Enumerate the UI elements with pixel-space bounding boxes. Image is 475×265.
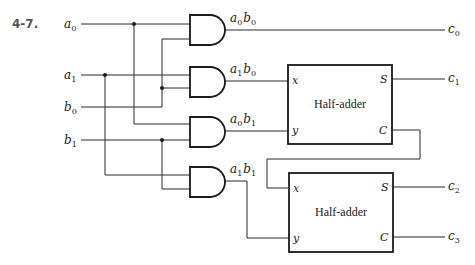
svg-text:x: x (292, 74, 299, 87)
half-adder-2: Half-adder x y S C (289, 173, 393, 252)
svg-text:c1: c1 (448, 71, 460, 87)
problem-number: 4-7. (12, 17, 38, 31)
svg-text:y: y (292, 232, 300, 245)
svg-text:a0b1: a0b1 (230, 112, 256, 128)
input-a1: a1 (64, 68, 76, 84)
svg-text:Half-adder: Half-adder (315, 205, 367, 219)
svg-text:a1b1: a1b1 (230, 162, 256, 178)
svg-text:b0: b0 (64, 100, 77, 116)
output-c2: c2 (448, 179, 460, 195)
svg-text:b1: b1 (64, 133, 77, 149)
svg-text:c2: c2 (448, 179, 460, 195)
input-b1: b1 (64, 133, 77, 149)
svg-text:x: x (293, 182, 300, 195)
half-adder-1: Half-adder x y S C (288, 65, 392, 144)
svg-text:a1b0: a1b0 (230, 62, 256, 78)
and-gate-a1b1: a1b1 (190, 162, 256, 197)
svg-text:a0: a0 (64, 17, 76, 33)
svg-text:S: S (381, 181, 389, 194)
svg-text:y: y (291, 124, 299, 137)
svg-text:Half-adder: Half-adder (314, 97, 366, 111)
and-gate-a0b0: a0b0 (190, 11, 256, 45)
svg-text:C: C (379, 124, 388, 137)
svg-text:c3: c3 (448, 229, 460, 245)
input-b0: b0 (64, 100, 77, 116)
svg-text:a0b0: a0b0 (230, 11, 256, 27)
input-a0: a0 (64, 17, 76, 33)
output-c1: c1 (448, 71, 460, 87)
svg-text:a1: a1 (64, 68, 76, 84)
svg-text:c0: c0 (448, 22, 460, 38)
output-c0: c0 (448, 22, 460, 38)
svg-text:C: C (380, 231, 389, 244)
and-gate-a1b0: a1b0 (190, 62, 256, 97)
and-gate-a0b1: a0b1 (190, 112, 256, 147)
output-c3: c3 (448, 229, 460, 245)
binary-multiplier-diagram: 4-7. a0 a1 b0 b1 (0, 0, 475, 265)
svg-text:S: S (380, 73, 388, 86)
